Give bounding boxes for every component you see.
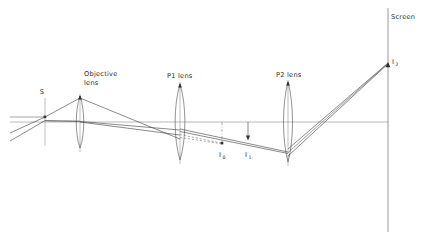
screen-label: Screen (391, 13, 415, 21)
ray-p2-to-screen-lower (288, 64, 388, 156)
optical-diagram-container: S Objective lens P1 lens P2 lens I 0 I 1… (0, 0, 427, 239)
i1-arrow-head-icon (246, 135, 250, 140)
i2-label-subscript: 2 (396, 62, 399, 67)
ray-p2-to-screen-upper (288, 63, 388, 149)
p1-lens-top-arrow-icon (178, 83, 182, 87)
i0-point-marker (221, 142, 224, 145)
source-label: S (40, 88, 44, 96)
virtual-ray-to-i0-lower (180, 138, 222, 144)
i0-label: I (219, 151, 221, 159)
i1-label-subscript: 1 (249, 155, 252, 160)
ray-p1-to-p2-upper (180, 129, 288, 152)
ray-p2-to-screen-middle (288, 63, 388, 152)
objective-lens-label-line1: Objective (84, 70, 118, 78)
i1-label: I (245, 151, 247, 159)
p2-lens-top-arrow-icon (286, 81, 290, 85)
i0-label-subscript: 0 (223, 155, 226, 160)
ray-p1-to-p2-lower (180, 132, 288, 154)
i2-label: I (392, 58, 394, 66)
p2-lens-label: P2 lens (276, 71, 302, 79)
optical-ray-diagram: S Objective lens P1 lens P2 lens I 0 I 1… (0, 0, 427, 239)
objective-lens-label-line2: lens (84, 79, 99, 87)
p1-lens-label: P1 lens (167, 72, 193, 80)
